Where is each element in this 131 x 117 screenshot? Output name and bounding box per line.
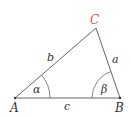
angle-alpha-arc bbox=[42, 75, 51, 98]
vertex-b-dot bbox=[119, 97, 121, 99]
vertex-a-dot bbox=[14, 97, 16, 99]
vertex-label-a: A bbox=[9, 101, 19, 115]
triangle-diagram: A B C b a c α β bbox=[0, 0, 131, 117]
vertex-label-c: C bbox=[90, 13, 99, 27]
vertex-label-b: B bbox=[114, 101, 124, 115]
angle-label-alpha: α bbox=[33, 83, 41, 96]
side-label-a: a bbox=[112, 53, 119, 66]
angle-label-beta: β bbox=[100, 83, 107, 96]
side-label-b: b bbox=[47, 51, 54, 64]
side-label-c: c bbox=[64, 100, 70, 113]
side-b bbox=[15, 28, 96, 98]
